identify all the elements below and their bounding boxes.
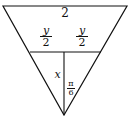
label-half-right: y 2 (76, 25, 88, 48)
angle-numerator: π (68, 80, 73, 88)
label-half-left: y 2 (40, 25, 52, 48)
outer-triangle (3, 6, 127, 115)
half-right-denominator: 2 (79, 37, 86, 48)
angle-denominator: 6 (68, 89, 73, 97)
label-angle: π 6 (67, 80, 75, 97)
diagram: 2 y 2 y 2 x π 6 (0, 0, 130, 120)
label-altitude: x (53, 69, 62, 80)
half-right-numerator: y (79, 25, 85, 36)
label-top-side: 2 (58, 7, 72, 19)
half-left-denominator: 2 (43, 37, 50, 48)
half-left-numerator: y (43, 25, 49, 36)
